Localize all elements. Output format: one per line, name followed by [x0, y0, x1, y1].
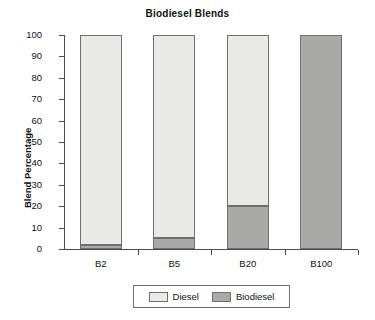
y-tick-label: 70: [2, 94, 42, 104]
y-tick: [59, 249, 64, 250]
y-tick-label: 100: [2, 30, 42, 40]
x-tick-label: B100: [286, 258, 356, 269]
chart-container: Biodiesel Blends Blend Percentage 010203…: [0, 0, 375, 320]
y-axis-line: [64, 35, 65, 250]
x-tick-label: B5: [139, 258, 209, 269]
x-tick: [358, 250, 359, 255]
y-tick-label: 60: [2, 116, 42, 126]
y-tick: [59, 35, 64, 36]
x-tick-label: B2: [66, 258, 136, 269]
y-tick: [59, 121, 64, 122]
bar-segment-diesel[interactable]: [80, 35, 122, 245]
bar-segment-diesel[interactable]: [153, 35, 195, 238]
bar-segment-diesel[interactable]: [227, 35, 269, 206]
bar-B100[interactable]: [300, 34, 342, 249]
bar-segment-biodiesel[interactable]: [300, 35, 342, 249]
y-tick-label: 0: [2, 244, 42, 254]
bar-B2[interactable]: [80, 34, 122, 249]
x-tick: [138, 250, 139, 255]
y-tick: [59, 99, 64, 100]
legend-item-diesel: Diesel: [149, 291, 199, 302]
chart-title: Biodiesel Blends: [0, 8, 375, 19]
x-tick-label: B20: [213, 258, 283, 269]
y-tick: [59, 206, 64, 207]
y-tick-label: 20: [2, 201, 42, 211]
y-tick: [59, 228, 64, 229]
y-tick: [59, 78, 64, 79]
y-tick: [59, 163, 64, 164]
y-tick-label: 50: [2, 137, 42, 147]
bar-B5[interactable]: [153, 34, 195, 249]
legend-item-biodiesel: Biodiesel: [212, 291, 275, 302]
legend-label-diesel: Diesel: [173, 291, 199, 302]
y-tick-label: 80: [2, 73, 42, 83]
chart-legend: Diesel Biodiesel: [133, 285, 290, 308]
bar-segment-biodiesel[interactable]: [227, 206, 269, 249]
y-tick: [59, 56, 64, 57]
legend-swatch-biodiesel: [212, 292, 231, 302]
y-tick: [59, 185, 64, 186]
y-tick-label: 10: [2, 223, 42, 233]
y-tick-label: 40: [2, 158, 42, 168]
y-tick: [59, 142, 64, 143]
legend-swatch-diesel: [149, 292, 168, 302]
bar-B20[interactable]: [227, 34, 269, 249]
plot-area: 0102030405060708090100 B2B5B20B100: [64, 35, 358, 250]
y-tick-label: 30: [2, 180, 42, 190]
y-axis-title: Blend Percentage: [10, 88, 24, 208]
bar-segment-biodiesel[interactable]: [80, 245, 122, 249]
x-tick: [211, 250, 212, 255]
x-tick: [285, 250, 286, 255]
legend-label-biodiesel: Biodiesel: [236, 291, 275, 302]
y-tick-label: 90: [2, 51, 42, 61]
bar-segment-biodiesel[interactable]: [153, 238, 195, 249]
